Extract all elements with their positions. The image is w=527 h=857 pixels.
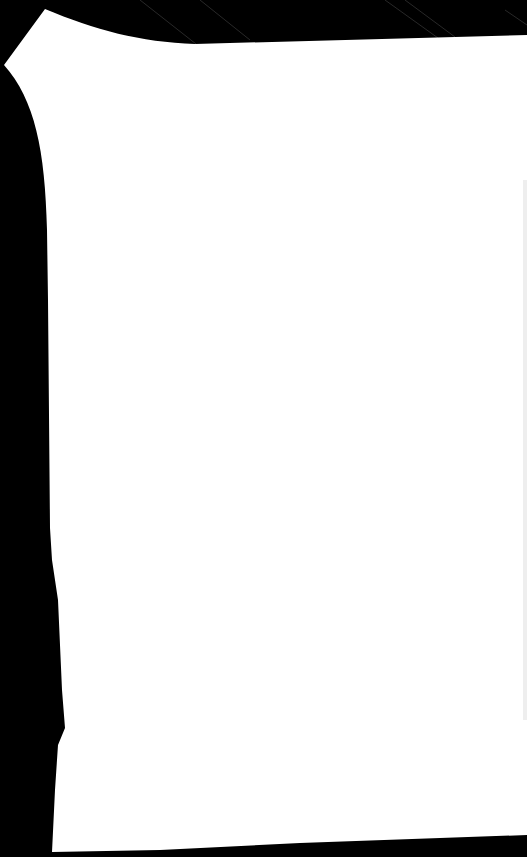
white-sheet-shape: [4, 9, 527, 852]
right-edge-shade: [523, 180, 527, 720]
scene-canvas: [0, 0, 527, 857]
scene-svg: [0, 0, 527, 857]
